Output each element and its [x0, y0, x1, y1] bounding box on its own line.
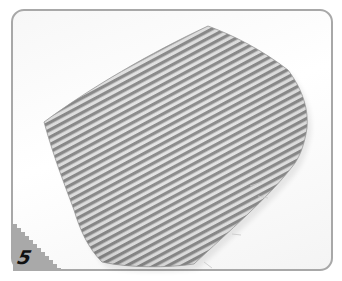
fabric-shading: [44, 26, 307, 267]
fabric-scene: [0, 0, 342, 281]
step-photo: 5: [0, 0, 342, 281]
